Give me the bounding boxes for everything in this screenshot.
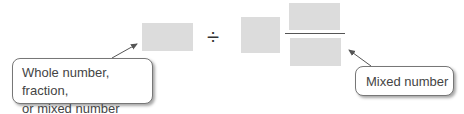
numerator-placeholder [289,3,340,30]
left-callout: Whole number, fraction, or mixed number [12,58,153,104]
left-arrow-icon [112,44,137,58]
dividend-placeholder [142,23,193,51]
whole-number-placeholder [241,17,280,53]
fraction-bar [285,33,345,34]
left-callout-line2: or mixed number [22,100,152,114]
right-callout-label: Mixed number [366,73,453,91]
right-callout: Mixed number [355,66,454,96]
denominator-placeholder [290,38,341,66]
left-callout-line1: Whole number, fraction, [22,64,152,100]
right-arrow-icon [349,50,371,66]
divide-sign: ÷ [207,26,219,48]
